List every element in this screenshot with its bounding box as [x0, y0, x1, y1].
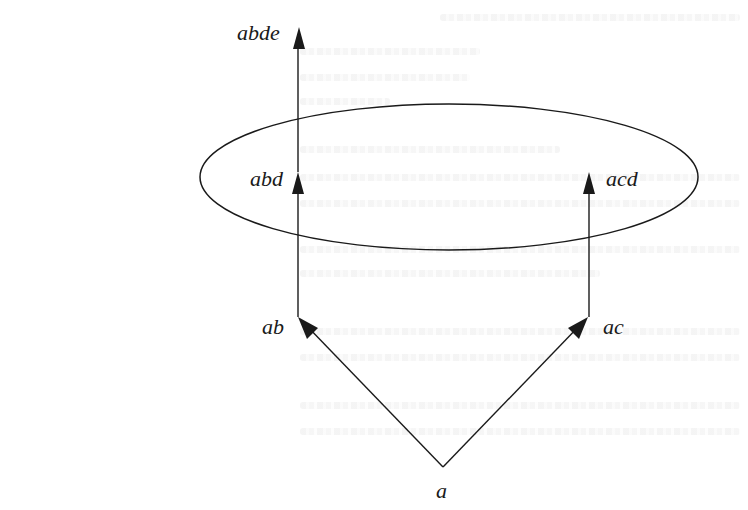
node-label-abd: abd: [250, 168, 283, 190]
node-label-ab: ab: [262, 316, 284, 338]
arrowhead-icon: [298, 317, 318, 339]
node-label-a: a: [436, 480, 447, 502]
edge-abd-to-abde: [293, 27, 305, 172]
arrowhead-icon: [292, 172, 304, 194]
edge-ab-to-abd: [292, 172, 304, 317]
lattice-diagram: [0, 0, 748, 510]
arrowhead-icon: [293, 27, 305, 49]
node-label-acd: acd: [606, 168, 638, 190]
node-label-abde: abde: [237, 22, 280, 44]
edge-ac-to-acd: [583, 172, 595, 317]
arrowhead-icon: [568, 317, 588, 339]
edge-a-to-ac: [443, 317, 588, 467]
node-label-ac: ac: [603, 316, 624, 338]
arrowhead-icon: [583, 172, 595, 194]
edge-a-to-ab: [298, 317, 443, 467]
